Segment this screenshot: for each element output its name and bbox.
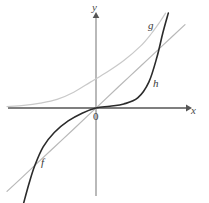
x-axis-label: x: [191, 105, 196, 116]
plot-canvas: [0, 0, 209, 203]
curve-label-h: h: [153, 78, 159, 89]
function-graph-figure: y x 0 f g h: [0, 0, 209, 203]
y-axis: [93, 12, 100, 196]
origin-label: 0: [93, 111, 99, 122]
y-axis-label: y: [92, 2, 97, 13]
curve-label-g: g: [148, 20, 154, 31]
curve-label-f: f: [41, 157, 44, 168]
